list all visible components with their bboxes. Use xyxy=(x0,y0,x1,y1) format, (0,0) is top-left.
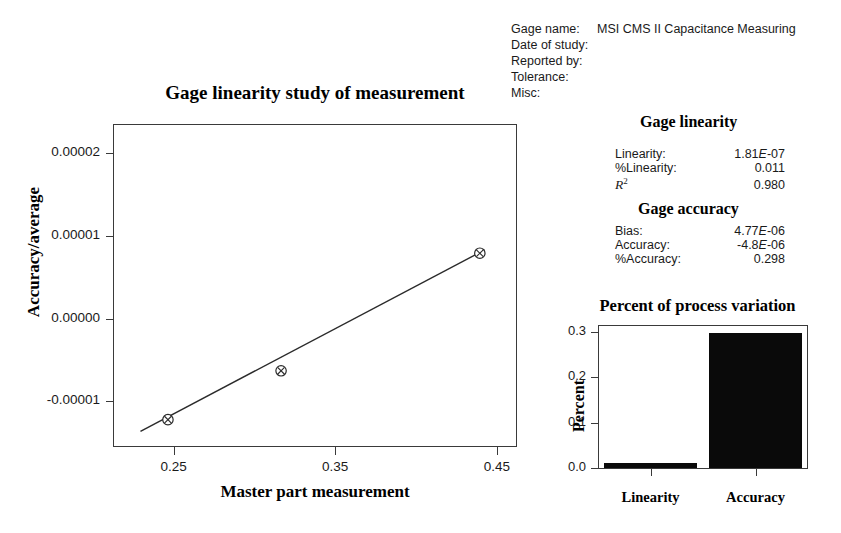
stat-row-linearity: Linearity:1.81E-07 xyxy=(615,145,785,160)
header-row: Misc: xyxy=(511,84,841,100)
scatter-y-tick-label: 0.00000 xyxy=(0,310,100,325)
stat-label-r-squared: R2 xyxy=(615,173,707,193)
header-row: Gage name:MSI CMS II Capacitance Measuri… xyxy=(511,20,841,36)
scatter-y-tick-mark xyxy=(106,319,113,320)
bar-accuracy xyxy=(709,333,801,468)
stat-value-percent-accuracy: 0.298 xyxy=(707,252,785,267)
scatter-y-tick-mark xyxy=(106,401,113,402)
scatter-y-axis-label: Accuracy/average xyxy=(24,107,44,397)
stat-row-bias: Bias:4.77E-06 xyxy=(615,222,785,237)
header-value-gage-name: MSI CMS II Capacitance Measuring xyxy=(597,21,796,37)
scatter-y-tick-mark xyxy=(106,236,113,237)
header-row: Date of study: xyxy=(511,36,841,52)
stat-row-percent-linearity: %Linearity:0.011 xyxy=(615,159,785,174)
header-row: Tolerance: xyxy=(511,68,841,84)
bar-y-tick-mark xyxy=(591,468,598,469)
scatter-y-tick-label: -0.00001 xyxy=(0,392,100,407)
scatter-y-tick-label: 0.00001 xyxy=(0,227,100,242)
scatter-chart-title: Gage linearity study of measurement xyxy=(113,82,517,104)
bar-y-tick-mark xyxy=(591,423,598,424)
scatter-x-tick-mark xyxy=(335,447,336,455)
scatter-x-tick-mark xyxy=(174,447,175,455)
header-label-gage-name: Gage name: xyxy=(511,21,597,37)
gage-accuracy-heading: Gage accuracy xyxy=(638,200,739,218)
data-point-marker xyxy=(163,414,173,424)
stat-label-percent-accuracy: %Accuracy: xyxy=(615,252,707,267)
bar-y-tick-mark xyxy=(591,377,598,378)
scatter-x-axis-label: Master part measurement xyxy=(113,482,517,502)
scatter-x-tick-label: 0.25 xyxy=(144,459,204,474)
bar-y-tick-mark xyxy=(591,332,598,333)
stat-row-r-squared: R20.980 xyxy=(615,173,785,188)
scatter-x-tick-label: 0.45 xyxy=(467,459,527,474)
stat-row-accuracy: Accuracy:-4.8E-06 xyxy=(615,236,785,251)
header-label-date-of-study: Date of study: xyxy=(511,37,597,53)
data-point-marker xyxy=(276,366,286,376)
header-label-reported-by: Reported by: xyxy=(511,53,597,69)
bar-y-tick-label: 0.3 xyxy=(540,323,586,338)
bar-chart-title: Percent of process variation xyxy=(560,296,835,316)
bar-category-label-accuracy: Accuracy xyxy=(701,489,811,506)
header-label-misc: Misc: xyxy=(511,85,597,101)
bar-category-label-linearity: Linearity xyxy=(596,489,706,506)
study-header: Gage name:MSI CMS II Capacitance Measuri… xyxy=(511,20,841,100)
scatter-y-tick-label: 0.00002 xyxy=(0,144,100,159)
regression-line xyxy=(140,250,484,431)
data-point-marker xyxy=(475,248,485,258)
scatter-x-tick-label: 0.35 xyxy=(305,459,365,474)
gage-linearity-report: Gage name:MSI CMS II Capacitance Measuri… xyxy=(0,0,841,533)
header-label-tolerance: Tolerance: xyxy=(511,69,597,85)
bar-x-tick-mark xyxy=(756,469,757,476)
stat-row-percent-accuracy: %Accuracy:0.298 xyxy=(615,250,785,265)
header-row: Reported by: xyxy=(511,52,841,68)
bar-x-tick-mark xyxy=(651,469,652,476)
bar-linearity xyxy=(604,463,696,468)
scatter-x-tick-mark xyxy=(497,447,498,455)
gage-linearity-heading: Gage linearity xyxy=(640,113,737,131)
stat-value-r-squared: 0.980 xyxy=(707,178,785,193)
bar-y-axis-label: Percent xyxy=(570,351,588,461)
scatter-plot-canvas xyxy=(113,124,517,447)
bar-y-tick-label: 0.0 xyxy=(540,459,586,474)
scatter-y-tick-mark xyxy=(106,153,113,154)
